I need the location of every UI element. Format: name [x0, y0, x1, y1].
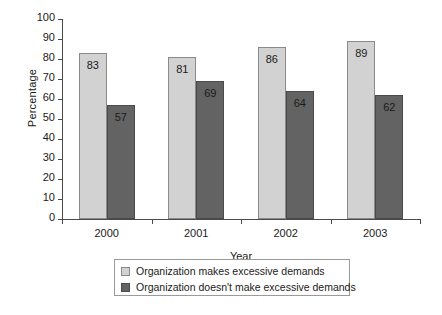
bar-value-label: 69	[197, 87, 223, 99]
bar-value-label: 62	[376, 101, 402, 113]
y-axis-tick-mark	[58, 199, 62, 200]
bar-2003-series-0: 89	[347, 41, 375, 219]
chart-legend: Organization makes excessive demandsOrga…	[114, 259, 350, 296]
x-axis-tick-mark	[62, 219, 63, 224]
y-axis-tick-label: 70	[43, 71, 55, 83]
y-axis-tick-mark	[58, 19, 62, 20]
y-axis-tick-mark	[58, 159, 62, 160]
bar-chart: Percentage 0102030405060708090100 835781…	[0, 0, 442, 315]
bar-value-label: 83	[80, 59, 106, 71]
y-axis-tick-label: 30	[43, 151, 55, 163]
legend-swatch-icon	[121, 267, 130, 276]
bar-2000-series-0: 83	[79, 53, 107, 219]
legend-swatch-icon	[121, 283, 130, 292]
bar-2001-series-0: 81	[168, 57, 196, 219]
y-axis-tick-mark	[58, 99, 62, 100]
legend-item[interactable]: Organization doesn't make excessive dema…	[121, 280, 343, 294]
y-axis-tick-mark	[58, 79, 62, 80]
legend-item-label: Organization doesn't make excessive dema…	[136, 281, 356, 293]
bar-2001-series-1: 69	[196, 81, 224, 219]
y-axis-tick-label: 90	[43, 31, 55, 43]
bar-value-label: 86	[259, 53, 285, 65]
x-axis-category-label-2002: 2002	[256, 227, 316, 239]
y-axis-tick-label: 20	[43, 171, 55, 183]
legend-item-label: Organization makes excessive demands	[136, 265, 325, 277]
x-axis-tick-mark	[241, 219, 242, 224]
y-axis-tick-mark	[58, 39, 62, 40]
bar-value-label: 64	[287, 97, 313, 109]
bar-2003-series-1: 62	[375, 95, 403, 219]
legend-item[interactable]: Organization makes excessive demands	[121, 264, 343, 278]
y-axis-line	[62, 19, 63, 219]
y-axis-tick-label: 50	[43, 111, 55, 123]
x-axis-tick-mark	[420, 219, 421, 224]
y-axis-tick-mark	[58, 139, 62, 140]
bar-value-label: 57	[108, 111, 134, 123]
bar-2002-series-1: 64	[286, 91, 314, 219]
bar-value-label: 89	[348, 47, 374, 59]
y-axis-tick-mark	[58, 179, 62, 180]
y-axis-tick-label: 60	[43, 91, 55, 103]
plot-area: 0102030405060708090100 8357816986648962 …	[62, 19, 420, 219]
y-axis-title: Percentage	[26, 38, 38, 158]
x-axis-category-label-2000: 2000	[77, 227, 137, 239]
x-axis-category-label-2003: 2003	[345, 227, 405, 239]
y-axis-tick-label: 40	[43, 131, 55, 143]
x-axis-category-label-2001: 2001	[166, 227, 226, 239]
y-axis-tick-label: 10	[43, 191, 55, 203]
x-axis-tick-mark	[331, 219, 332, 224]
x-axis-tick-mark	[152, 219, 153, 224]
y-axis-tick-mark	[58, 119, 62, 120]
y-axis-tick-label: 80	[43, 51, 55, 63]
bar-2000-series-1: 57	[107, 105, 135, 219]
y-axis-tick-mark	[58, 59, 62, 60]
y-axis-tick-label: 0	[49, 211, 55, 223]
bar-2002-series-0: 86	[258, 47, 286, 219]
y-axis-tick-label: 100	[37, 11, 55, 23]
bar-value-label: 81	[169, 63, 195, 75]
